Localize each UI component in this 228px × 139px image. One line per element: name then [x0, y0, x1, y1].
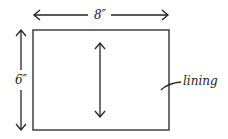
- height-label: 6″: [15, 73, 28, 87]
- width-label: 8″: [94, 8, 107, 22]
- label-leader-line: [161, 82, 181, 90]
- piece-label: lining: [183, 74, 218, 88]
- grainline-arrow: [95, 43, 105, 117]
- lining-pattern-diagram: 8″ 6″ lining: [0, 0, 228, 139]
